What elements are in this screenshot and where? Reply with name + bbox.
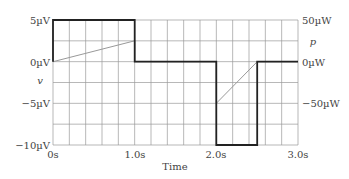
y-left-tick-0: 0µV — [30, 57, 51, 68]
y-right-tick-minus50: −50µW — [302, 98, 341, 109]
x-axis-title: Time — [162, 161, 187, 172]
y-left-tick-minus10: −10µV — [15, 140, 51, 151]
x-tick-0s: 0s — [47, 149, 59, 160]
y-left-tick-minus5: −5µV — [22, 98, 51, 109]
grid-lines — [53, 20, 298, 145]
series-p-line — [53, 41, 298, 104]
left-axis-variable-label: v — [37, 75, 43, 86]
y-left-tick-5: 5µV — [30, 15, 51, 26]
y-right-tick-0: 0µW — [302, 57, 326, 68]
x-tick-2s: 2.0s — [205, 149, 226, 160]
x-tick-1s: 1.0s — [124, 149, 145, 160]
x-tick-3s: 3.0s — [287, 149, 308, 160]
right-axis-variable-label: p — [310, 36, 317, 47]
y-right-tick-50: 50µW — [302, 15, 332, 26]
chart: 5µV 0µV v −5µV −10µV 50µW p 0µW −50µW 0s… — [0, 0, 349, 179]
